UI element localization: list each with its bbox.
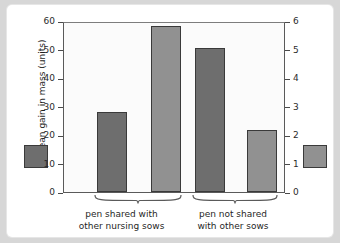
right-axis-tick-mark bbox=[285, 164, 290, 165]
group-label-1-line2: other nursing sows bbox=[69, 220, 174, 232]
group-brace-1 bbox=[94, 195, 182, 204]
left-axis-tick-label: 20 bbox=[44, 130, 55, 141]
right-axis-tick-mark bbox=[285, 50, 290, 51]
chart-card: mean gain in mass (units) mean number of… bbox=[7, 5, 333, 237]
left-axis-tick-label: 40 bbox=[44, 73, 55, 84]
right-axis-title: mean number of fights among piglets (uni… bbox=[307, 23, 333, 153]
bar-mass-pen-shared bbox=[97, 112, 127, 192]
bar-fights-pen-shared bbox=[151, 26, 181, 192]
right-axis-tick-mark bbox=[285, 107, 290, 108]
right-axis-tick-mark bbox=[285, 136, 290, 137]
group-label-2-line2: with other sows bbox=[183, 220, 283, 232]
right-axis-tick-mark bbox=[285, 79, 290, 80]
left-axis-tick-label: 60 bbox=[44, 16, 55, 27]
group-label-1-line1: pen shared with bbox=[69, 208, 174, 220]
right-axis-tick-label: 6 bbox=[293, 16, 299, 27]
bar-mass-pen-not-shared bbox=[195, 48, 225, 192]
right-axis-tick-label: 5 bbox=[293, 45, 299, 56]
right-axis-tick-label: 2 bbox=[293, 130, 299, 141]
right-axis-tick-label: 0 bbox=[293, 187, 299, 198]
left-axis-tick-label: 0 bbox=[49, 187, 55, 198]
right-axis-tick-label: 1 bbox=[293, 159, 299, 170]
group-brace-2 bbox=[192, 195, 278, 204]
group-label-1: pen shared with other nursing sows bbox=[69, 208, 174, 232]
left-axis-tick-label: 50 bbox=[44, 45, 55, 56]
right-axis-tick-label: 4 bbox=[293, 73, 299, 84]
plot-area bbox=[63, 22, 285, 193]
group-label-2-line1: pen not shared bbox=[183, 208, 283, 220]
right-axis-tick-mark bbox=[285, 22, 290, 23]
group-label-2: pen not shared with other sows bbox=[183, 208, 283, 232]
bar-fights-pen-not-shared bbox=[247, 130, 277, 192]
right-axis-tick-label: 3 bbox=[293, 102, 299, 113]
left-axis-tick-label: 10 bbox=[44, 159, 55, 170]
right-axis-tick-mark bbox=[285, 193, 290, 194]
legend-swatch-mean-number-of-fights bbox=[303, 145, 327, 168]
left-axis-tick-label: 30 bbox=[44, 102, 55, 113]
